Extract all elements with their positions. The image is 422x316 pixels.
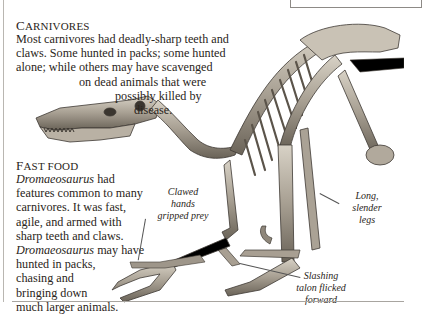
caption-line: talon flicked bbox=[280, 282, 362, 294]
caption-line: forward bbox=[280, 294, 362, 306]
species-name: Dromaeosaurus bbox=[16, 243, 94, 257]
tibia-2 bbox=[300, 128, 320, 250]
paragraph-line: Dromaeosaurus had bbox=[16, 172, 144, 186]
paragraph-line: carnivores. It was fast, bbox=[16, 200, 144, 214]
heading-initial: C bbox=[16, 18, 25, 33]
line-rest: may have bbox=[94, 243, 144, 257]
paragraph-line: sharp teeth and claws. bbox=[16, 229, 144, 243]
heading-rest: ARNIVORES bbox=[25, 20, 90, 32]
paragraph-line: features common to many bbox=[16, 186, 144, 200]
heading-rest: AST FOOD bbox=[23, 160, 78, 172]
caption-line: Long, bbox=[336, 190, 398, 202]
caption-line: Clawed bbox=[148, 186, 218, 198]
rear-foot-2 bbox=[240, 250, 300, 258]
paragraph-line: Dromaeosaurus may have bbox=[16, 243, 144, 257]
paragraph-line: chasing and bbox=[16, 271, 144, 285]
line-rest: had bbox=[94, 172, 115, 186]
paragraph-line: Most carnivores had deadly-sharp teeth a… bbox=[16, 32, 229, 46]
paragraph-line: possibly killed by bbox=[16, 89, 229, 103]
paragraph-line: on dead animals that were bbox=[16, 75, 229, 89]
tibia bbox=[278, 145, 294, 262]
fast-food-paragraph: Dromaeosaurus had features common to man… bbox=[16, 172, 144, 314]
caption-line: legs bbox=[336, 214, 398, 226]
talon bbox=[260, 226, 272, 244]
paragraph-line: bringing down bbox=[16, 286, 144, 300]
tail bbox=[350, 58, 404, 72]
caption-clawed-hands: Clawed hands gripped prey bbox=[148, 186, 218, 222]
paragraph-line: hunted in packs, bbox=[16, 257, 144, 271]
caption-line: hands bbox=[148, 198, 218, 210]
bottom-rule bbox=[12, 301, 404, 302]
caption-line: gripped prey bbox=[148, 210, 218, 222]
caption-line: slender bbox=[336, 202, 398, 214]
paragraph-line: claws. Some hunted in packs; some hunted bbox=[16, 46, 229, 60]
paragraph-line: agile, and armed with bbox=[16, 215, 144, 229]
caption-long-legs: Long, slender legs bbox=[336, 190, 398, 226]
species-name: Dromaeosaurus bbox=[16, 172, 94, 186]
carnivores-paragraph: Most carnivores had deadly-sharp teeth a… bbox=[16, 32, 229, 117]
paragraph-line: disease. bbox=[16, 103, 229, 117]
pubis bbox=[338, 70, 380, 154]
paragraph-line: alone; while others may have scavenged bbox=[16, 60, 229, 74]
front-arm bbox=[222, 160, 238, 240]
